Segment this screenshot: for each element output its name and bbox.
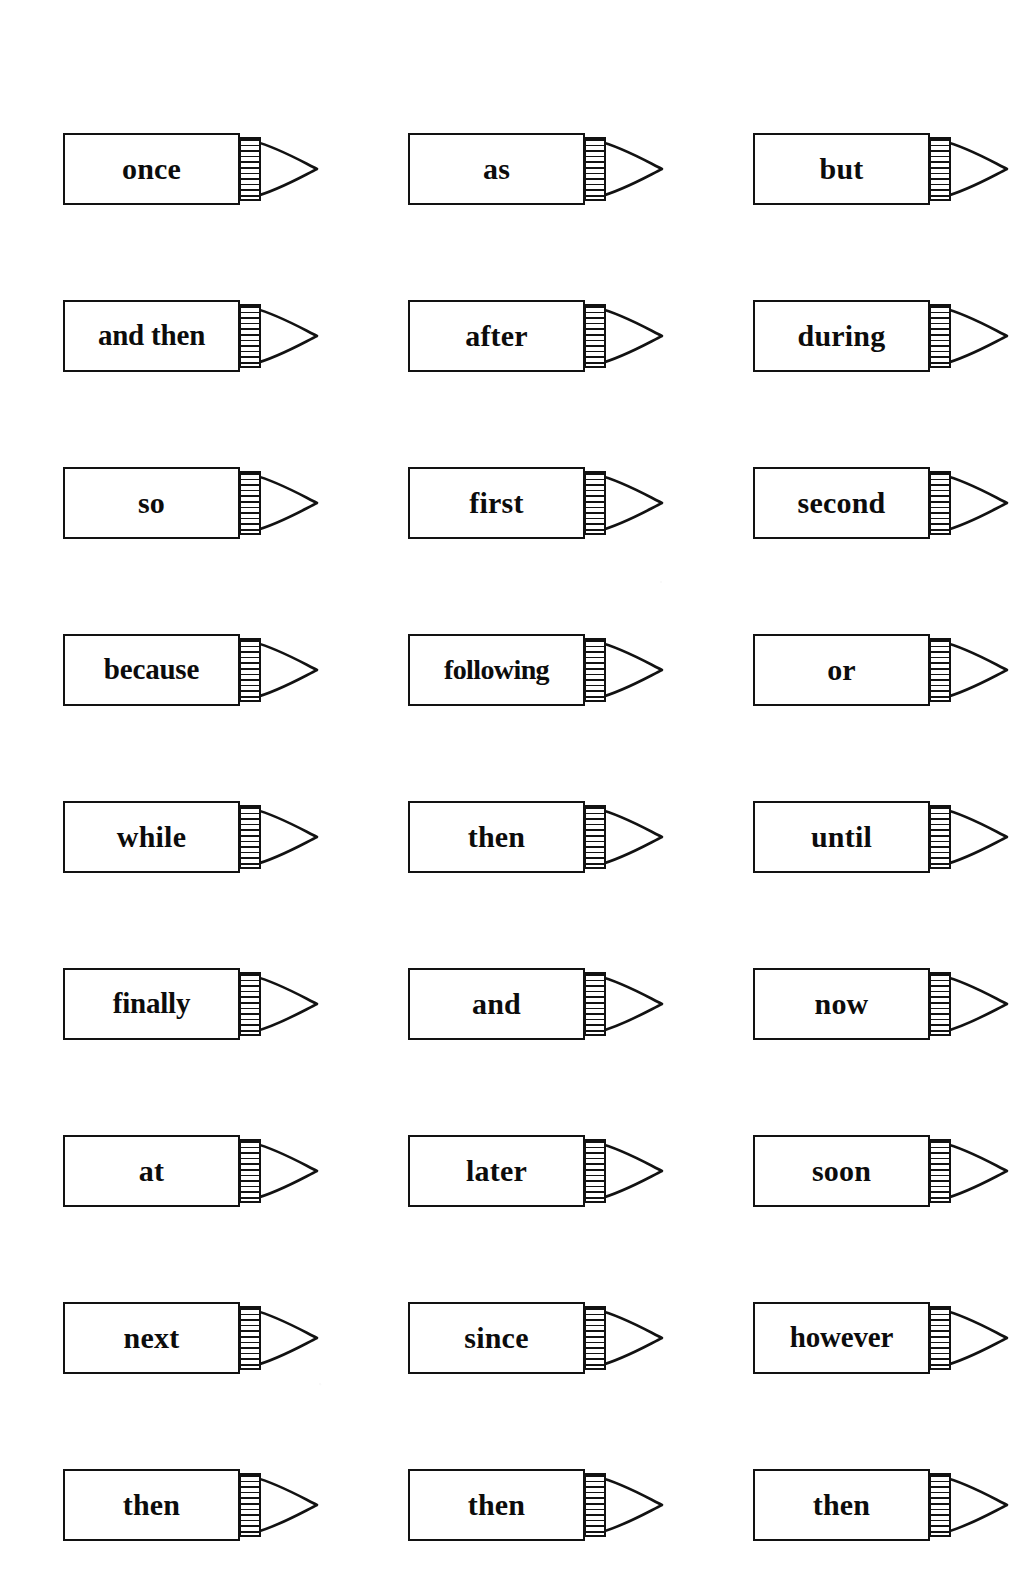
- pencil-card[interactable]: second: [753, 467, 1006, 539]
- pencil-ferrule-icon: [929, 471, 951, 535]
- pencil-word-label: soon: [809, 1156, 874, 1186]
- pencil-word-label: now: [812, 989, 872, 1019]
- pencil-ferrule-icon: [239, 137, 261, 201]
- pencil-ferrule-icon: [929, 304, 951, 368]
- pencil-card[interactable]: however: [753, 1302, 1006, 1374]
- pencil-tip-icon: [596, 970, 664, 1038]
- pencil-word-label: following: [441, 656, 552, 684]
- pencil-body: then: [753, 1469, 930, 1541]
- pencil-ferrule-icon: [584, 471, 606, 535]
- pencil-ferrule-icon: [584, 137, 606, 201]
- pencil-card[interactable]: at: [63, 1135, 316, 1207]
- pencil-word-label: at: [136, 1156, 167, 1186]
- pencil-ferrule-icon: [239, 972, 261, 1036]
- pencil-word-label: then: [120, 1490, 183, 1520]
- pencil-card[interactable]: so: [63, 467, 316, 539]
- pencil-card[interactable]: as: [408, 133, 661, 205]
- pencil-ferrule-icon: [584, 638, 606, 702]
- pencil-word-label: and: [469, 989, 524, 1019]
- pencil-body: now: [753, 968, 930, 1040]
- pencil-tip-icon: [251, 1137, 319, 1205]
- pencil-ferrule-icon: [239, 304, 261, 368]
- pencil-tip-icon: [941, 469, 1009, 537]
- pencil-word-label: because: [101, 655, 202, 684]
- pencil-card[interactable]: then: [63, 1469, 316, 1541]
- pencil-word-label: next: [121, 1323, 183, 1353]
- pencil-card[interactable]: then: [408, 801, 661, 873]
- pencil-card[interactable]: following: [408, 634, 661, 706]
- pencil-card[interactable]: first: [408, 467, 661, 539]
- pencil-card[interactable]: and: [408, 968, 661, 1040]
- pencil-tip-icon: [941, 803, 1009, 871]
- pencil-ferrule-icon: [584, 304, 606, 368]
- pencil-word-label: however: [787, 1323, 896, 1352]
- pencil-tip-icon: [596, 302, 664, 370]
- pencil-card[interactable]: until: [753, 801, 1006, 873]
- pencil-card[interactable]: next: [63, 1302, 316, 1374]
- pencil-word-label: second: [795, 488, 889, 518]
- pencil-ferrule-icon: [239, 638, 261, 702]
- pencil-card[interactable]: and then: [63, 300, 316, 372]
- pencil-tip-icon: [941, 1304, 1009, 1372]
- pencil-body: later: [408, 1135, 585, 1207]
- pencil-card[interactable]: soon: [753, 1135, 1006, 1207]
- pencil-card[interactable]: later: [408, 1135, 661, 1207]
- pencil-card-grid: onceasbutand thenafterduringsofirstsecon…: [0, 0, 1033, 1573]
- pencil-tip-icon: [596, 135, 664, 203]
- pencil-body: as: [408, 133, 585, 205]
- pencil-ferrule-icon: [929, 638, 951, 702]
- pencil-tip-icon: [941, 1137, 1009, 1205]
- pencil-ferrule-icon: [929, 1139, 951, 1203]
- pencil-ferrule-icon: [929, 805, 951, 869]
- pencil-ferrule-icon: [584, 1139, 606, 1203]
- pencil-word-label: then: [465, 1490, 528, 1520]
- pencil-word-label: then: [810, 1490, 873, 1520]
- pencil-body: since: [408, 1302, 585, 1374]
- pencil-card[interactable]: after: [408, 300, 661, 372]
- pencil-card[interactable]: now: [753, 968, 1006, 1040]
- pencil-card[interactable]: while: [63, 801, 316, 873]
- pencil-word-label: or: [824, 655, 859, 685]
- pencil-word-label: finally: [110, 989, 194, 1018]
- pencil-tip-icon: [596, 1137, 664, 1205]
- pencil-card[interactable]: or: [753, 634, 1006, 706]
- pencil-tip-icon: [596, 1471, 664, 1539]
- pencil-ferrule-icon: [239, 805, 261, 869]
- pencil-ferrule-icon: [239, 471, 261, 535]
- pencil-body: then: [408, 801, 585, 873]
- pencil-word-label: since: [461, 1323, 531, 1353]
- pencil-word-label: as: [480, 154, 513, 184]
- pencil-tip-icon: [251, 970, 319, 1038]
- pencil-tip-icon: [941, 970, 1009, 1038]
- pencil-body: during: [753, 300, 930, 372]
- pencil-card[interactable]: once: [63, 133, 316, 205]
- pencil-ferrule-icon: [929, 137, 951, 201]
- pencil-card[interactable]: during: [753, 300, 1006, 372]
- pencil-tip-icon: [941, 302, 1009, 370]
- pencil-tip-icon: [251, 1304, 319, 1372]
- pencil-body: after: [408, 300, 585, 372]
- pencil-ferrule-icon: [584, 805, 606, 869]
- pencil-tip-icon: [941, 1471, 1009, 1539]
- pencil-body: once: [63, 133, 240, 205]
- pencil-word-label: and then: [95, 321, 208, 350]
- worksheet-page: onceasbutand thenafterduringsofirstsecon…: [0, 0, 1033, 1573]
- pencil-tip-icon: [596, 1304, 664, 1372]
- pencil-tip-icon: [251, 302, 319, 370]
- pencil-body: second: [753, 467, 930, 539]
- pencil-word-label: after: [462, 321, 531, 351]
- pencil-word-label: during: [795, 321, 889, 351]
- pencil-card[interactable]: then: [753, 1469, 1006, 1541]
- pencil-tip-icon: [596, 469, 664, 537]
- pencil-card[interactable]: then: [408, 1469, 661, 1541]
- pencil-body: and then: [63, 300, 240, 372]
- pencil-ferrule-icon: [929, 1473, 951, 1537]
- pencil-body: so: [63, 467, 240, 539]
- pencil-card[interactable]: but: [753, 133, 1006, 205]
- pencil-card[interactable]: finally: [63, 968, 316, 1040]
- pencil-card[interactable]: since: [408, 1302, 661, 1374]
- pencil-body: or: [753, 634, 930, 706]
- pencil-body: at: [63, 1135, 240, 1207]
- pencil-body: finally: [63, 968, 240, 1040]
- pencil-card[interactable]: because: [63, 634, 316, 706]
